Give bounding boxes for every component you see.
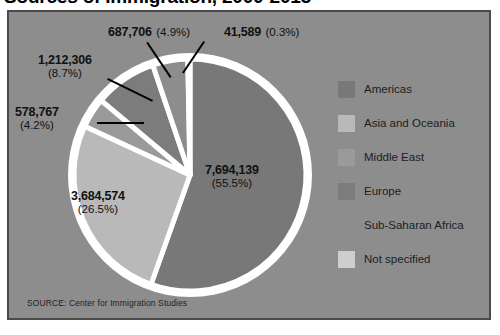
legend-swatch-icon bbox=[338, 217, 355, 234]
slice-value-asia-oceania: 3,684,574 bbox=[71, 190, 125, 203]
leader-line-middle-east bbox=[97, 122, 144, 124]
slice-label-asia-oceania: 3,684,574 (26.5%) bbox=[71, 190, 125, 215]
slice-label-not-specified: 41,589 (0.3%) bbox=[224, 23, 299, 40]
legend-swatch-icon bbox=[338, 251, 355, 268]
slice-percent-asia-oceania: (26.5%) bbox=[71, 203, 125, 215]
legend-swatch-icon bbox=[338, 149, 355, 166]
pie-chart bbox=[65, 50, 315, 300]
slice-label-subsaharan-africa: 687,706 (4.9%) bbox=[108, 23, 190, 40]
legend-item[interactable]: Middle East bbox=[338, 140, 488, 174]
legend-item[interactable]: Sub-Saharan Africa bbox=[338, 208, 488, 242]
pie-slice[interactable] bbox=[188, 59, 190, 175]
slice-percent-europe: (8.7%) bbox=[38, 67, 92, 79]
chart-legend: AmericasAsia and OceaniaMiddle EastEurop… bbox=[338, 72, 488, 276]
page-title: Sources of Immigration, 2000-2013 bbox=[4, 0, 311, 8]
chart-panel: 7,694,139 (55.5%) 3,684,574 (26.5%) 578,… bbox=[7, 10, 491, 320]
slice-percent-middle-east: (4.2%) bbox=[15, 119, 59, 131]
slice-value-americas: 7,694,139 bbox=[205, 164, 259, 177]
pie-svg bbox=[65, 50, 315, 300]
legend-item-label: Not specified bbox=[364, 253, 430, 265]
slice-label-europe: 1,212,306 (8.7%) bbox=[38, 54, 92, 79]
legend-item-label: Middle East bbox=[364, 151, 424, 163]
legend-item-label: Sub-Saharan Africa bbox=[364, 219, 464, 231]
slice-label-middle-east: 578,767 (4.2%) bbox=[15, 106, 59, 131]
slice-percent-americas: (55.5%) bbox=[205, 177, 259, 189]
slice-percent-not-specified: (0.3%) bbox=[266, 26, 300, 38]
source-note: SOURCE: Center for Immigration Studies bbox=[27, 298, 187, 308]
legend-item[interactable]: Asia and Oceania bbox=[338, 106, 488, 140]
slice-value-europe: 1,212,306 bbox=[38, 54, 92, 67]
legend-swatch-icon bbox=[338, 183, 355, 200]
legend-item-label: Europe bbox=[364, 185, 401, 197]
legend-item[interactable]: Europe bbox=[338, 174, 488, 208]
slice-percent-subsaharan-africa: (4.9%) bbox=[156, 26, 190, 38]
legend-swatch-icon bbox=[338, 81, 355, 98]
slice-value-not-specified: 41,589 bbox=[224, 25, 261, 39]
legend-item[interactable]: Not specified bbox=[338, 242, 488, 276]
legend-item-label: Asia and Oceania bbox=[364, 117, 455, 129]
legend-swatch-icon bbox=[338, 115, 355, 132]
chart-title-strip: Sources of Immigration, 2000-2013 bbox=[0, 0, 500, 10]
legend-item-label: Americas bbox=[364, 83, 412, 95]
legend-item[interactable]: Americas bbox=[338, 72, 488, 106]
slice-value-subsaharan-africa: 687,706 bbox=[108, 25, 152, 39]
slice-value-middle-east: 578,767 bbox=[15, 106, 59, 119]
slice-label-americas: 7,694,139 (55.5%) bbox=[205, 164, 259, 189]
